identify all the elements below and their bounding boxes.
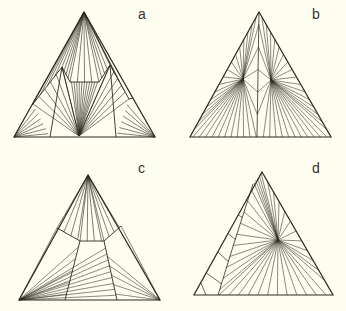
panel-label-a: a [138, 6, 146, 22]
panel-label-d: d [312, 160, 320, 176]
panel-label-c: c [138, 160, 145, 176]
triangle-diagrams [0, 0, 346, 311]
panel-label-b: b [312, 6, 320, 22]
